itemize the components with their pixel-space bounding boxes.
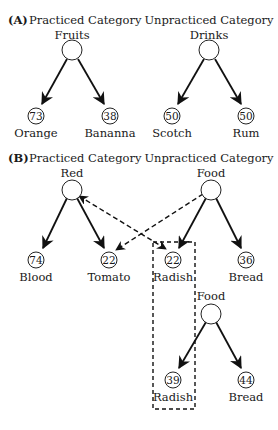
node-food-2	[201, 304, 221, 324]
bread-value: 36	[239, 254, 253, 266]
bananna-value: 38	[103, 110, 116, 122]
radish-2-value: 39	[166, 374, 179, 386]
bread-2-label: Bread	[229, 390, 265, 404]
panel-a-practiced-title: Practiced Category	[29, 13, 142, 27]
edge-fruits-orange	[42, 59, 67, 104]
radish-label: Radish	[153, 270, 194, 284]
scotch-label: Scotch	[152, 126, 192, 140]
edge-red-tomato	[77, 198, 104, 248]
radish-value: 22	[166, 254, 179, 266]
panel-a-unpracticed-title: Unpracticed Category	[144, 13, 274, 27]
edge-food2-radish	[179, 322, 206, 368]
edge-drinks-rum	[215, 59, 241, 104]
node-food	[201, 180, 221, 200]
rum-value: 50	[239, 110, 252, 122]
edge-red-blood	[43, 198, 67, 248]
panel-a: (A) Practiced Category Unpracticed Categ…	[8, 13, 274, 140]
category-food-label: Food	[197, 166, 226, 180]
node-fruits	[62, 40, 82, 60]
scotch-value: 50	[165, 110, 178, 122]
panel-b: (B) Practiced Category Unpracticed Categ…	[8, 151, 274, 409]
node-drinks	[199, 40, 219, 60]
rum-label: Rum	[233, 126, 260, 140]
panel-b-unpracticed-title: Unpracticed Category	[144, 151, 274, 165]
category-food-2-label: Food	[197, 289, 226, 303]
panel-b-practiced-title: Practiced Category	[29, 151, 142, 165]
edge-food2-bread	[216, 322, 241, 368]
category-red-label: Red	[61, 166, 84, 180]
edge-food-bread	[216, 198, 241, 248]
panel-a-label: (A)	[8, 13, 28, 27]
bread-2-value: 44	[239, 374, 253, 386]
edge-food-radish	[179, 198, 206, 248]
radish-2-label: Radish	[153, 390, 194, 404]
node-red	[62, 180, 82, 200]
dashed-edge-red-radish	[79, 196, 166, 249]
blood-value: 74	[29, 254, 43, 266]
orange-value: 73	[29, 110, 42, 122]
bananna-label: Bananna	[84, 126, 135, 140]
orange-label: Orange	[14, 126, 58, 140]
retrieval-induced-forgetting-diagram: (A) Practiced Category Unpracticed Categ…	[0, 0, 278, 430]
edge-fruits-bananna	[78, 59, 104, 104]
tomato-label: Tomato	[87, 270, 130, 284]
edge-drinks-scotch	[178, 59, 204, 104]
bread-label: Bread	[229, 270, 265, 284]
panel-b-label: (B)	[8, 151, 29, 165]
blood-label: Blood	[19, 270, 53, 284]
tomato-value: 22	[102, 254, 115, 266]
